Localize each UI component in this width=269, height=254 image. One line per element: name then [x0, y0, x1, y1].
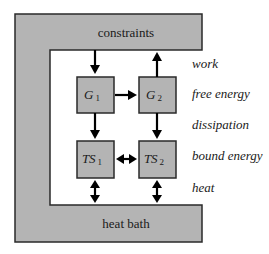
box-g1: G1 — [77, 77, 114, 113]
box-ts1: TS1 — [77, 141, 114, 178]
label-bound-energy: bound energy — [192, 148, 263, 163]
label-dissipation: dissipation — [192, 117, 249, 132]
label-free-energy: free energy — [192, 86, 250, 101]
label-heat: heat — [192, 180, 215, 195]
thermodynamics-diagram: constraints heat bath G1 G2 TS1 TS2 — [0, 0, 269, 254]
constraints-label: constraints — [98, 25, 154, 40]
box-g2: G2 — [139, 77, 176, 113]
ts1-sub: 1 — [98, 157, 103, 167]
g2-main: G — [146, 87, 156, 102]
arrow-constraints-to-g1 — [90, 50, 100, 74]
arrow-g2-to-ts2 — [152, 113, 162, 139]
arrow-ts1-heatbath-double — [90, 180, 100, 203]
label-work: work — [192, 56, 218, 71]
g1-main: G — [84, 87, 94, 102]
arrow-g1-to-ts1 — [90, 113, 100, 139]
ts1-main: TS — [82, 151, 96, 166]
box-ts2: TS2 — [139, 141, 176, 178]
ts2-sub: 2 — [160, 157, 165, 167]
arrow-ts1-ts2-double — [116, 154, 137, 164]
arrow-ts2-heatbath-double — [152, 180, 162, 203]
heat-bath-label: heat bath — [102, 216, 150, 231]
g2-sub: 2 — [157, 93, 162, 103]
g1-sub: 1 — [95, 93, 100, 103]
outer-frame — [15, 14, 202, 242]
ts2-main: TS — [144, 151, 158, 166]
arrow-g2-to-constraints — [152, 52, 162, 77]
arrow-g1-to-g2 — [115, 90, 137, 100]
